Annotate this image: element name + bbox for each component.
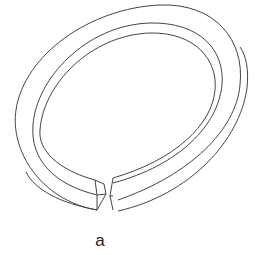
ring-inner-edge [40, 33, 215, 180]
ring-middle-edge [33, 23, 222, 195]
ring-outer-bottom-edge-right [118, 47, 248, 211]
figure-canvas: a [0, 0, 266, 255]
figure-label: a [93, 231, 107, 251]
ring-left-end-face-diagonal [97, 194, 106, 195]
split-ring-icon [0, 0, 266, 255]
ring-right-end-face [110, 178, 113, 210]
